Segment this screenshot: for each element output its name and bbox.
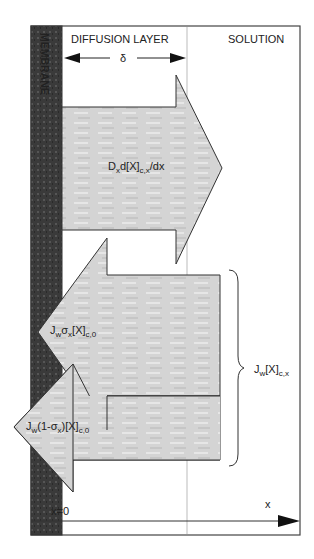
origin-label: x=0 xyxy=(51,505,69,517)
solution-label: SOLUTION xyxy=(228,33,284,45)
diffusion-layer-label: DIFFUSION LAYER xyxy=(71,33,169,45)
x-axis-label: x xyxy=(265,498,271,510)
delta-symbol: δ xyxy=(120,52,126,64)
transmitted-arrow-shaft-fill xyxy=(73,396,220,460)
membrane-label: MEMBRANE xyxy=(39,33,51,95)
diffusion-layer-diagram: MEMBRANE DIFFUSION LAYER SOLUTION δ Dxd[… xyxy=(0,0,314,559)
